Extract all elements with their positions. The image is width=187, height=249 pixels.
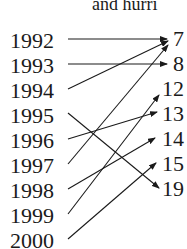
arrow-1994-7	[68, 41, 168, 89]
arrow-1996-13	[68, 112, 157, 139]
arrow-1999-12	[68, 95, 159, 214]
arrow-2000-15	[68, 163, 156, 239]
arrow-1998-14	[68, 138, 155, 189]
mapping-arrows	[0, 0, 187, 249]
arrow-1997-7	[68, 45, 168, 164]
arrow-1995-19	[68, 113, 159, 188]
